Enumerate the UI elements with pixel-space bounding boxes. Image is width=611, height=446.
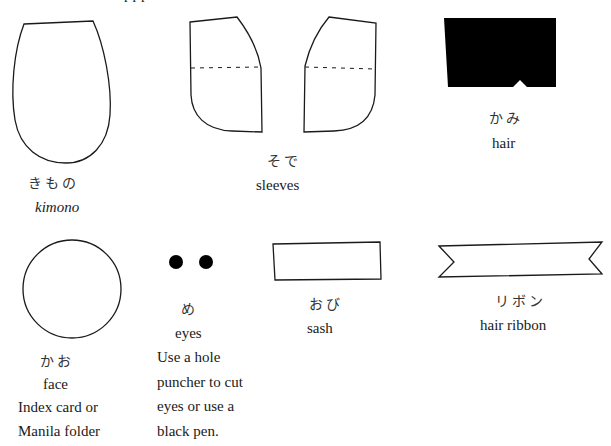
- face-shape: [23, 240, 121, 338]
- sleeves-japanese-label: そで: [267, 150, 301, 172]
- kimono-english-label: kimono: [35, 196, 79, 218]
- eyes-note-line-2: puncher to cut: [157, 370, 243, 394]
- eye-right-shape: [199, 255, 213, 269]
- ribbon-english-label: hair ribbon: [480, 314, 546, 336]
- sleeve-left-shape: [190, 17, 262, 132]
- eyes-japanese-label: め: [181, 298, 198, 320]
- sash-japanese-label: おび: [309, 293, 343, 315]
- kimono-japanese-label: きもの: [28, 172, 79, 194]
- cutout-patterns: [0, 0, 611, 446]
- face-english-label: face: [43, 373, 68, 395]
- eyes-note-line-3: eyes or use a: [157, 394, 234, 418]
- sleeves-english-label: sleeves: [256, 174, 299, 196]
- eyes-note-line-4: black pen.: [157, 419, 219, 443]
- face-note-line-1: Index card or: [18, 395, 98, 419]
- hair-japanese-label: かみ: [489, 107, 523, 129]
- sash-shape: [273, 242, 381, 280]
- eyes-note-line-1: Use a hole: [157, 345, 220, 369]
- eyes-english-label: eyes: [175, 322, 202, 344]
- ribbon-japanese-label: リボン: [495, 290, 546, 312]
- face-japanese-label: かお: [40, 350, 74, 372]
- eye-left-shape: [169, 255, 183, 269]
- face-note-line-2: Manila folder: [18, 419, 100, 443]
- sleeve-right-fold-line: [305, 67, 375, 69]
- hair-english-label: hair: [492, 132, 515, 154]
- sash-english-label: sash: [307, 317, 333, 339]
- ribbon-shape: [439, 242, 602, 277]
- sleeve-left-fold-line: [191, 67, 261, 68]
- kimono-shape: [13, 21, 110, 163]
- hair-shape: [444, 18, 556, 87]
- sleeve-right-shape: [304, 17, 376, 132]
